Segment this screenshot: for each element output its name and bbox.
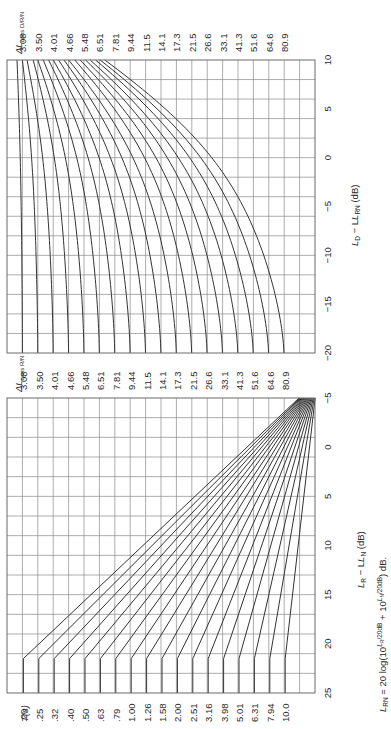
right-axis-label: 26.6 (203, 372, 214, 391)
x-tick-label: 10 (322, 55, 333, 66)
series-label: 14.1 (156, 34, 167, 53)
formula-text: LRN = 20 log(10LR/20dB + 10LN/20dB) dB. (376, 557, 389, 712)
curve-4.01 (27, 60, 53, 353)
upper-grid (7, 60, 315, 353)
curve-T-.63 (100, 398, 303, 693)
x-tick-label: −5 (322, 393, 333, 404)
lower-curves (23, 398, 315, 693)
right-axis-label: 64.6 (265, 372, 276, 391)
x-tick-label: 5 (322, 494, 333, 499)
series-label: .79 (111, 709, 122, 722)
x-tick-label: 5 (322, 106, 333, 111)
curve-T-2.51 (193, 398, 310, 693)
right-axis-label: 3.50 (34, 372, 45, 391)
right-axis-label: 41.3 (234, 372, 245, 391)
right-axis-label: 9.44 (126, 372, 137, 391)
x-tick-label: −10 (322, 247, 333, 263)
series-label: 80.9 (279, 34, 290, 53)
series-label: 21.5 (187, 34, 198, 53)
series-label: 1.00 (126, 704, 137, 723)
right-axis-label: 33.1 (219, 372, 230, 391)
series-label: 3.50 (33, 34, 44, 53)
curve-T-6.31 (254, 398, 313, 693)
x-tick-label: −5 (322, 201, 333, 212)
series-label: 26.6 (202, 34, 213, 53)
upper-x-ticks: −20−15−10−50510 (322, 55, 333, 361)
curve-80.9 (105, 60, 284, 353)
series-label: 11.5 (141, 34, 152, 52)
lower-axis-title: LR − LLN (dB) (355, 531, 367, 588)
series-label: .50 (80, 709, 91, 722)
series-label: 3.16 (203, 704, 214, 723)
x-tick-label: 15 (322, 589, 333, 600)
series-label: 5.01 (234, 704, 245, 723)
series-label: 1.26 (142, 704, 153, 723)
right-axis-label: 5.48 (80, 372, 91, 391)
series-label: 51.6 (248, 34, 259, 53)
upper-series-labels: 3.083.504.014.665.486.517.819.4411.514.1… (17, 34, 290, 53)
series-label: .25 (34, 709, 45, 722)
curve-T-.50 (85, 398, 303, 693)
right-axis-label: 11.5 (142, 372, 153, 390)
right-axis-label: 6.51 (95, 372, 106, 391)
chart-figure: 3.083.504.014.665.486.517.819.4411.514.1… (0, 0, 391, 729)
series-label: .40 (65, 709, 76, 722)
upper-legend-title: ΔLcons D/R/N (13, 12, 25, 55)
lower-series-labels: .20.25.32.40.50.63.791.001.261.582.002.5… (18, 704, 291, 723)
curve-T-.32 (54, 398, 301, 693)
series-label: 33.1 (218, 34, 229, 53)
series-label: 2.51 (188, 704, 199, 723)
lower-legend-title: T(s) (19, 705, 30, 722)
right-axis-label: 51.6 (249, 372, 260, 391)
series-label: 1.58 (157, 704, 168, 723)
curve-T-.40 (70, 398, 302, 693)
curve-4.66 (33, 60, 68, 353)
series-label: 10.0 (280, 704, 291, 723)
series-label: 17.3 (171, 34, 182, 53)
x-tick-label: 0 (322, 155, 333, 160)
series-label: 41.3 (233, 34, 244, 53)
curve-21.5 (75, 60, 192, 353)
lower-panel-plot (7, 398, 315, 693)
right-axis-label: 80.9 (280, 372, 291, 391)
series-label: 7.94 (265, 704, 276, 723)
curve-33.1 (86, 60, 223, 353)
right-axis-label: 4.66 (65, 372, 76, 391)
curve-3.08 (17, 60, 22, 353)
x-tick-label: −20 (322, 345, 333, 361)
upper-axis-title: LD − LLRN (dB) (349, 185, 361, 246)
right-axis-label: 7.81 (111, 372, 122, 391)
series-label: 3.98 (219, 704, 230, 723)
series-label: 5.48 (79, 34, 90, 53)
x-tick-label: 20 (322, 639, 333, 650)
series-label: .63 (95, 709, 106, 722)
x-tick-label: 25 (322, 688, 333, 699)
series-label: 64.6 (264, 34, 275, 53)
right-axis-label: 4.01 (49, 372, 60, 391)
lower-right-axis-title: ΔLcons R/N (13, 356, 25, 393)
x-tick-label: −15 (322, 296, 333, 312)
series-label: 2.00 (172, 704, 183, 723)
right-axis-label: 14.1 (157, 372, 168, 391)
series-label: 6.31 (249, 704, 260, 723)
lower-right-axis-labels: 3.083.504.014.665.486.517.819.4411.514.1… (18, 372, 291, 391)
series-label: 4.66 (64, 34, 75, 53)
right-axis-label: 17.3 (172, 372, 183, 391)
series-label: 4.01 (48, 34, 59, 53)
series-label: 9.44 (125, 34, 136, 53)
x-tick-label: 0 (322, 445, 333, 450)
upper-panel-plot (7, 60, 315, 353)
series-label: 6.51 (94, 34, 105, 53)
lower-x-ticks: −50510152025 (322, 393, 333, 699)
upper-curves (17, 60, 284, 353)
series-label: 7.81 (110, 34, 121, 53)
x-tick-label: 10 (322, 540, 333, 551)
curve-7.81 (49, 60, 115, 353)
series-label: .32 (49, 709, 60, 722)
right-axis-label: 21.5 (188, 372, 199, 391)
